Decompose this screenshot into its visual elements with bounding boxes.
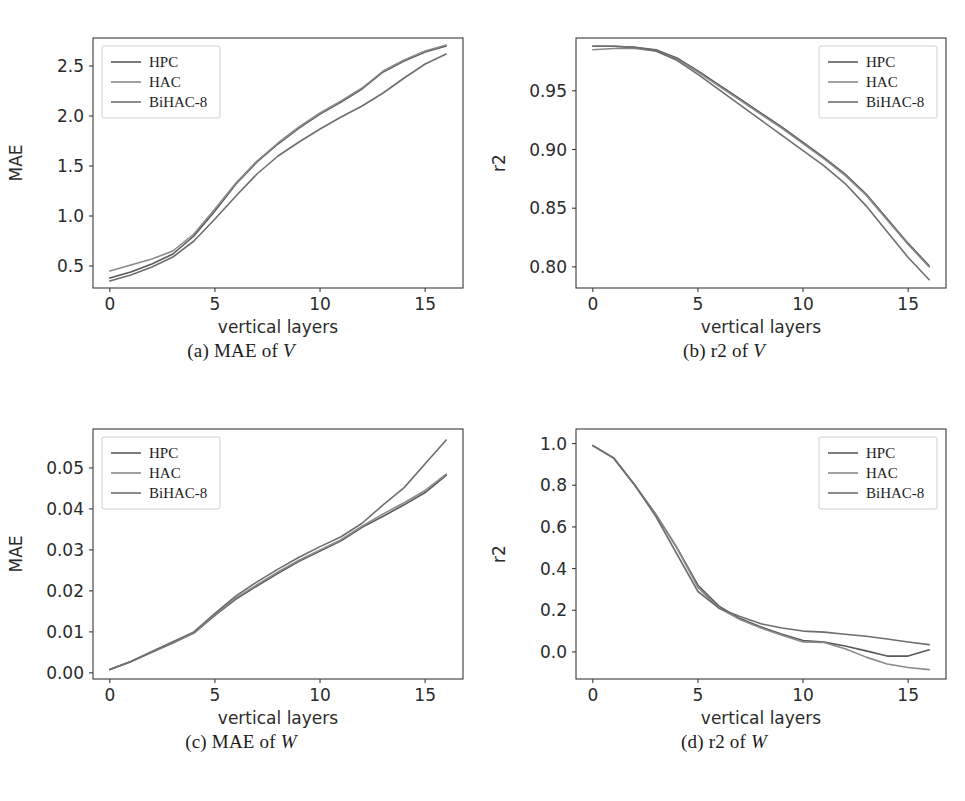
legend-label-hpc: HPC <box>149 54 178 70</box>
x-tick-label: 0 <box>587 685 598 705</box>
panel-d: 0510150.00.20.40.60.81.0vertical layersr… <box>483 391 965 791</box>
legend-label-bihac-8: BiHAC-8 <box>149 94 207 110</box>
y-tick-label: 0.95 <box>529 81 567 101</box>
x-tick-label: 10 <box>792 685 814 705</box>
panel-c-svg: 0510150.000.010.020.030.040.05vertical l… <box>0 391 482 736</box>
x-tick-label: 10 <box>309 294 331 314</box>
y-tick-label: 1.5 <box>57 156 84 176</box>
x-axis-label: vertical layers <box>218 317 338 337</box>
x-tick-label: 15 <box>897 294 919 314</box>
y-tick-label: 1.0 <box>540 434 567 454</box>
y-axis-label: MAE <box>6 535 26 572</box>
panel-a-caption-text: (a) MAE of <box>187 340 283 361</box>
panel-d-caption-text: (d) r2 of <box>681 731 751 752</box>
x-tick-label: 5 <box>693 294 704 314</box>
y-axis-label: r2 <box>489 545 509 563</box>
legend-label-hac: HAC <box>149 465 181 481</box>
y-tick-label: 2.5 <box>57 56 84 76</box>
panel-a-caption-variable: V <box>283 340 295 361</box>
panel-a-plot: 0510150.51.01.52.02.5vertical layersMAEH… <box>0 0 482 345</box>
y-tick-label: 0.01 <box>46 622 84 642</box>
panel-d-caption-variable: W <box>751 731 767 752</box>
x-tick-label: 15 <box>897 685 919 705</box>
legend: HPCHACBiHAC-8 <box>819 46 937 118</box>
legend-label-hpc: HPC <box>866 54 895 70</box>
panel-b-caption: (b) r2 of V <box>483 340 965 362</box>
x-tick-label: 5 <box>210 685 221 705</box>
panel-a: 0510150.51.01.52.02.5vertical layersMAEH… <box>0 0 482 400</box>
y-tick-label: 0.02 <box>46 581 84 601</box>
x-axis-label: vertical layers <box>701 708 821 728</box>
y-tick-label: 0.80 <box>529 257 567 277</box>
panel-b-plot: 0510150.800.850.900.95vertical layersr2H… <box>483 0 965 345</box>
legend-label-bihac-8: BiHAC-8 <box>866 94 924 110</box>
legend-label-hac: HAC <box>866 74 898 90</box>
panel-c-caption-text: (c) MAE of <box>185 731 281 752</box>
x-tick-label: 0 <box>104 294 115 314</box>
y-tick-label: 0.5 <box>57 256 84 276</box>
x-tick-label: 15 <box>414 685 436 705</box>
panel-d-caption: (d) r2 of W <box>483 731 965 753</box>
legend-label-bihac-8: BiHAC-8 <box>866 485 924 501</box>
x-tick-label: 5 <box>210 294 221 314</box>
panel-c-plot: 0510150.000.010.020.030.040.05vertical l… <box>0 391 482 736</box>
x-axis-label: vertical layers <box>218 708 338 728</box>
legend: HPCHACBiHAC-8 <box>102 437 220 509</box>
panel-a-caption: (a) MAE of V <box>0 340 482 362</box>
legend-label-hpc: HPC <box>866 445 895 461</box>
y-tick-label: 0.03 <box>46 540 84 560</box>
legend-label-bihac-8: BiHAC-8 <box>149 485 207 501</box>
y-tick-label: 0.00 <box>46 663 84 683</box>
legend: HPCHACBiHAC-8 <box>102 46 220 118</box>
x-tick-label: 5 <box>693 685 704 705</box>
y-axis-label: r2 <box>489 154 509 172</box>
x-tick-label: 0 <box>587 294 598 314</box>
y-tick-label: 1.0 <box>57 206 84 226</box>
figure-container: 0510150.51.01.52.02.5vertical layersMAEH… <box>0 0 965 801</box>
y-tick-label: 0.6 <box>540 517 567 537</box>
y-tick-label: 2.0 <box>57 106 84 126</box>
x-tick-label: 10 <box>309 685 331 705</box>
panel-b: 0510150.800.850.900.95vertical layersr2H… <box>483 0 965 400</box>
panel-b-svg: 0510150.800.850.900.95vertical layersr2H… <box>483 0 965 345</box>
x-tick-label: 0 <box>104 685 115 705</box>
y-tick-label: 0.0 <box>540 642 567 662</box>
y-tick-label: 0.04 <box>46 499 84 519</box>
y-tick-label: 0.8 <box>540 475 567 495</box>
panel-a-svg: 0510150.51.01.52.02.5vertical layersMAEH… <box>0 0 482 345</box>
panel-c-caption: (c) MAE of W <box>0 731 482 753</box>
x-tick-label: 10 <box>792 294 814 314</box>
y-tick-label: 0.90 <box>529 140 567 160</box>
y-tick-label: 0.2 <box>540 600 567 620</box>
legend-label-hac: HAC <box>866 465 898 481</box>
legend-label-hac: HAC <box>149 74 181 90</box>
panel-b-caption-text: (b) r2 of <box>683 340 753 361</box>
panel-d-svg: 0510150.00.20.40.60.81.0vertical layersr… <box>483 391 965 736</box>
legend: HPCHACBiHAC-8 <box>819 437 937 509</box>
y-tick-label: 0.85 <box>529 198 567 218</box>
y-tick-label: 0.05 <box>46 458 84 478</box>
x-axis-label: vertical layers <box>701 317 821 337</box>
legend-label-hpc: HPC <box>149 445 178 461</box>
panel-c: 0510150.000.010.020.030.040.05vertical l… <box>0 391 482 791</box>
panel-c-caption-variable: W <box>281 731 297 752</box>
panel-d-plot: 0510150.00.20.40.60.81.0vertical layersr… <box>483 391 965 736</box>
panel-b-caption-variable: V <box>753 340 765 361</box>
y-axis-label: MAE <box>6 144 26 181</box>
x-tick-label: 15 <box>414 294 436 314</box>
y-tick-label: 0.4 <box>540 559 567 579</box>
